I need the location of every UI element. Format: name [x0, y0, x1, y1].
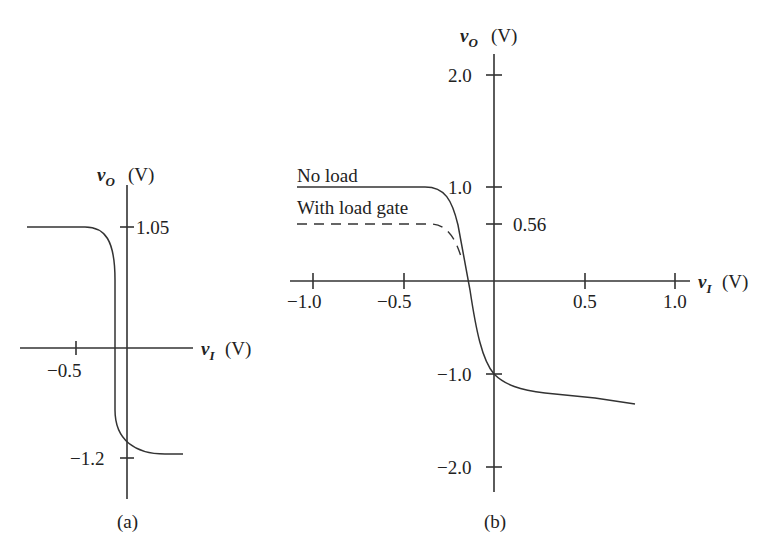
panel-b-caption: (b) — [484, 511, 506, 533]
panel-b-xlabel-m1.0: −1.0 — [287, 291, 321, 312]
panel-b-ylabel: vO — [460, 25, 478, 50]
panel-a: 1.05 −1.2 −0.5 vO (V) vI (V) (a) — [20, 164, 251, 533]
panel-b-xlabel-m0.5: −0.5 — [377, 291, 411, 312]
panel-b-xlabel-unit: (V) — [722, 271, 748, 293]
panel-a-caption: (a) — [117, 511, 138, 533]
panel-b-label-2.0: 2.0 — [448, 65, 472, 86]
panel-b: No load With load gate 2.0 1.0 0.56 −1.0… — [287, 25, 748, 533]
panel-b-label-1.0: 1.0 — [448, 177, 472, 198]
panel-b-xlabel-1.0: 1.0 — [663, 291, 687, 312]
panel-a-ylabel: vO — [97, 164, 115, 189]
panel-b-label-m2.0: −2.0 — [437, 457, 471, 478]
legend-with-load-gate: With load gate — [297, 197, 408, 218]
legend-no-load: No load — [297, 165, 358, 186]
panel-b-label-m1.0: −1.0 — [437, 364, 471, 385]
panel-b-xlabel: vI — [698, 271, 712, 296]
figure: 1.05 −1.2 −0.5 vO (V) vI (V) (a) No load… — [0, 0, 773, 554]
panel-a-label-1.05: 1.05 — [136, 217, 169, 238]
panel-a-label-m1.2: −1.2 — [70, 448, 104, 469]
panel-a-curve — [27, 227, 183, 454]
panel-b-xlabel-0.5: 0.5 — [573, 291, 597, 312]
panel-b-label-0.56: 0.56 — [513, 214, 546, 235]
panel-b-curve-with-load — [297, 224, 462, 260]
panel-a-label-m0.5: −0.5 — [47, 360, 81, 381]
panel-a-xlabel: vI — [201, 338, 215, 363]
panel-a-ylabel-unit: (V) — [128, 164, 154, 186]
panel-b-ylabel-unit: (V) — [491, 25, 517, 47]
panel-a-xlabel-unit: (V) — [225, 338, 251, 360]
